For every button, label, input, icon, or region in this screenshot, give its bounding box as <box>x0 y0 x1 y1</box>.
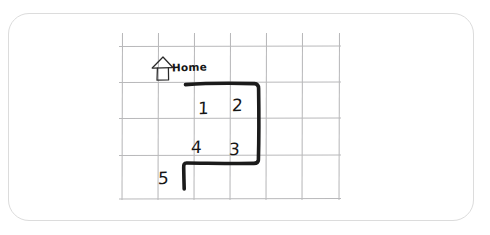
cell-number-5: 5 <box>158 170 169 187</box>
home-label: Home <box>172 62 207 73</box>
cell-number-1: 1 <box>198 100 209 117</box>
illustration-stage: Home 1 2 4 3 5 <box>0 0 490 235</box>
illustration-card <box>8 13 474 221</box>
cell-number-2: 2 <box>232 97 243 114</box>
cell-number-3: 3 <box>229 141 240 158</box>
cell-number-4: 4 <box>191 139 202 156</box>
